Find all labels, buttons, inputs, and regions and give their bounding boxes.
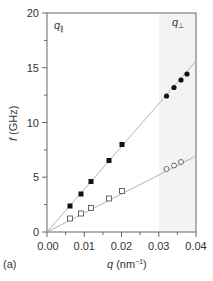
y-axis-ticks [42,13,47,232]
series-open-squares [68,189,125,222]
q-parallel-label: q∥ [54,19,64,33]
chart-canvas: 0 5 10 15 20 0.00 0.01 0.02 0.03 0.04 q … [0,0,213,281]
y-axis-title: f (GHz) [7,106,19,141]
x-tick-label: 0.00 [37,240,58,252]
y-tick-label: 10 [27,117,39,129]
y-tick-label: 20 [27,7,39,19]
x-axis-title: q (nm−1) [107,258,147,270]
x-tick-label: 0.01 [74,240,95,252]
q-perp-region-shade [159,13,196,232]
x-tick-label: 0.03 [148,240,169,252]
y-tick-label: 0 [33,226,39,238]
x-axis-ticks [47,232,196,237]
x-tick-label: 0.04 [185,240,206,252]
y-tick-label: 15 [27,62,39,74]
x-tick-label: 0.02 [111,240,132,252]
y-tick-label: 5 [33,171,39,183]
panel-label: (a) [3,258,16,270]
